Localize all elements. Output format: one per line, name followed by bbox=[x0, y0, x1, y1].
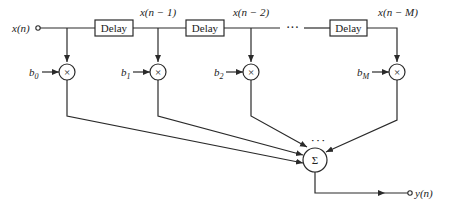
signal-line bbox=[367, 28, 397, 62]
input-label: x(n) bbox=[11, 22, 30, 35]
svg-text:×: × bbox=[155, 66, 161, 78]
summer: Σ bbox=[303, 148, 327, 172]
input-terminal-icon bbox=[36, 26, 40, 30]
svg-text:×: × bbox=[64, 66, 70, 78]
multiplier-0: b0 × bbox=[29, 64, 75, 81]
delay-block-m: Delay bbox=[330, 20, 367, 36]
ellipsis: ··· bbox=[286, 22, 299, 33]
output-label: y(n) bbox=[414, 187, 433, 200]
output-arrow-icon bbox=[378, 190, 385, 196]
tap-label-m: x(n − M) bbox=[377, 6, 418, 19]
svg-text:×: × bbox=[394, 66, 400, 78]
svg-text:×: × bbox=[248, 66, 254, 78]
sum-ellipsis: · · · bbox=[311, 135, 325, 145]
svg-text:bM: bM bbox=[357, 66, 371, 81]
svg-text:Σ: Σ bbox=[312, 154, 318, 166]
delay-block-1: Delay bbox=[95, 20, 133, 36]
product-line-0 bbox=[67, 80, 303, 163]
input-node: x(n) bbox=[11, 22, 40, 35]
fir-filter-diagram: x(n) Delay x(n − 1) Delay x(n − 2) ··· D… bbox=[0, 0, 450, 209]
svg-text:b1: b1 bbox=[121, 66, 131, 81]
delay-label: Delay bbox=[101, 22, 128, 34]
output-terminal-icon bbox=[408, 191, 412, 195]
delay-label: Delay bbox=[335, 22, 362, 34]
svg-text:b0: b0 bbox=[29, 66, 39, 81]
multiplier-2: b2 × bbox=[214, 64, 259, 81]
multiplier-1: b1 × bbox=[121, 64, 166, 81]
output-line bbox=[315, 172, 408, 193]
tap-label-1: x(n − 1) bbox=[139, 6, 176, 19]
product-line-m bbox=[326, 80, 397, 152]
product-line-2 bbox=[251, 80, 307, 147]
product-line-1 bbox=[158, 80, 303, 155]
tap-label-2: x(n − 2) bbox=[232, 6, 269, 19]
svg-text:b2: b2 bbox=[214, 66, 224, 81]
delay-label: Delay bbox=[192, 22, 219, 34]
delay-block-2: Delay bbox=[186, 20, 224, 36]
multiplier-m: bM × bbox=[357, 64, 405, 81]
